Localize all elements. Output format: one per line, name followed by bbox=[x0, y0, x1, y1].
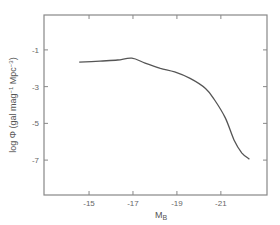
x-tick-label: -15 bbox=[83, 199, 95, 208]
y-tick-label: -3 bbox=[32, 83, 40, 92]
luminosity-function-chart: -15-17-19-21 -1-3-5-7 MB log Φ (gal mag−… bbox=[0, 0, 280, 225]
y-tick-label: -1 bbox=[32, 46, 40, 55]
y-tick-label: -5 bbox=[32, 119, 40, 128]
y-tick-label: -7 bbox=[32, 156, 40, 165]
x-axis-label: MB bbox=[155, 210, 168, 221]
x-tick-label: -17 bbox=[127, 199, 139, 208]
y-axis-ticks: -1-3-5-7 bbox=[32, 46, 267, 165]
y-axis-label: log Φ (gal mag−1 Mpc−3) bbox=[8, 57, 18, 152]
x-tick-label: -21 bbox=[215, 199, 227, 208]
plot-frame bbox=[44, 15, 267, 195]
x-tick-label: -19 bbox=[171, 199, 183, 208]
x-axis-ticks: -15-17-19-21 bbox=[83, 15, 227, 208]
luminosity-curve bbox=[79, 58, 249, 159]
